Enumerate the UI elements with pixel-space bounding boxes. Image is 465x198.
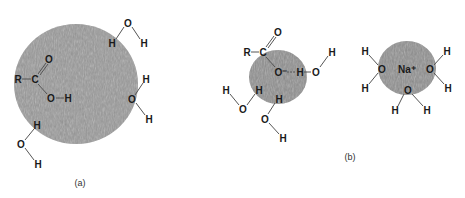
atom-label: O <box>274 27 282 38</box>
atom-label: O <box>426 64 434 75</box>
atom-label: H <box>361 46 368 57</box>
atom-label: R <box>243 47 251 58</box>
atom-label: H <box>255 85 262 96</box>
atom-label: H <box>64 93 71 104</box>
atom-label: O <box>45 54 53 65</box>
atom-label: H <box>391 105 398 116</box>
sodium-ion-label: Na⁺ <box>398 64 416 75</box>
atom-label: H <box>328 47 335 58</box>
panel-b-carboxylate: O R C O⁻ H O H H H O H O H <box>222 27 335 144</box>
atom-label: H <box>222 85 229 96</box>
atom-label: H <box>296 67 303 78</box>
atom-label: O <box>47 93 55 104</box>
atom-label: O <box>261 114 269 125</box>
atom-label: H <box>145 114 152 125</box>
caption-b: (b) <box>345 152 356 162</box>
atom-label: H <box>444 83 451 94</box>
panel-a: R C O O H O H H H O H H O H (a) <box>14 18 153 189</box>
atom-label: R <box>14 74 22 85</box>
atom-label: O <box>17 139 25 150</box>
atom-label: H <box>443 46 450 57</box>
atom-label: H <box>423 105 430 116</box>
atom-label: C <box>259 47 266 58</box>
atom-label: C <box>31 74 38 85</box>
atom-label: O⁻ <box>275 67 288 78</box>
atom-label: H <box>142 74 149 85</box>
atom-label: H <box>140 38 147 49</box>
atom-label: H <box>361 83 368 94</box>
atom-label: O <box>404 85 412 96</box>
atom-label: O <box>378 64 386 75</box>
atom-label: O <box>128 94 136 105</box>
panel-b-sodium: H O Na⁺ O H H H O H H (b) <box>345 41 452 162</box>
atom-label: O <box>239 104 247 115</box>
atom-label: H <box>108 38 115 49</box>
atom-label: H <box>275 94 282 105</box>
atom-label: O <box>312 67 320 78</box>
atom-label: H <box>33 120 40 131</box>
atom-label: H <box>279 133 286 144</box>
atom-label: O <box>124 18 132 29</box>
caption-a: (a) <box>75 178 86 188</box>
diagram-canvas: R C O O H O H H H O H H O H (a) <box>0 0 465 198</box>
atom-label: H <box>34 159 41 170</box>
